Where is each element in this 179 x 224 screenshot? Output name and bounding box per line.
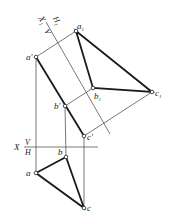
point-a-prime [34,55,38,59]
aux-axis-v-group: V [42,27,53,37]
label-c: c [87,203,91,213]
top-view-triangle [36,157,84,208]
label-c1: c1 [155,88,162,99]
label-b1: b1 [94,91,101,102]
label-a: a [26,168,31,178]
label-b-prime: b' [54,101,62,111]
point-c [82,206,86,210]
point-c-prime [82,134,86,138]
label-a1: a1 [77,21,84,32]
point-c1 [150,90,154,94]
label-a-prime: a' [26,52,34,62]
projection-diagram: a' b' c' a b c a1 b1 c1 X V H X1 H1 V [0,0,179,224]
diagram-svg: a' b' c' a b c a1 b1 c1 X V H X1 H1 V [0,0,179,224]
projector-a1 [36,31,76,57]
front-view-edge [36,57,84,136]
axis-x-label: X [13,142,20,152]
aux-axis-v-label: V [42,27,53,37]
point-a [34,171,38,175]
aux-axis-h1-label: H1 [50,14,63,27]
point-b1 [91,86,95,90]
label-c-prime: c' [87,132,94,142]
axis-v-label: V [25,138,31,147]
point-b-prime [63,104,67,108]
aux-axis-h1-group: H1 [50,14,63,27]
aux-axis-x-label: X1 [35,13,49,26]
axis-h-label: H [24,148,32,157]
aux-axis-labels: X1 [35,13,49,26]
label-b: b [58,147,63,157]
aux-view-triangle [76,31,152,92]
point-b [64,155,68,159]
projector-b [65,106,66,157]
